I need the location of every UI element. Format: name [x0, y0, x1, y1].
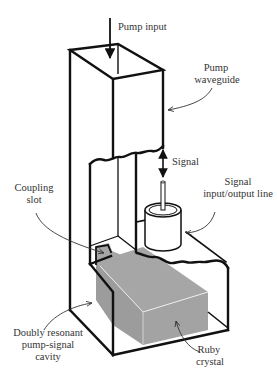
signal-line-cylinder: [145, 181, 181, 251]
label-pump-waveguide-2: waveguide: [194, 74, 240, 85]
leader-pump-waveguide: [168, 88, 212, 110]
maser-cavity-diagram: Pump input Pump waveguide Signal Signal …: [0, 0, 277, 377]
label-signal-line-1: Signal: [225, 176, 252, 187]
label-cavity-1: Doubly resonant: [13, 327, 83, 338]
label-ruby-2: crystal: [196, 356, 224, 367]
label-cavity-3: cavity: [35, 351, 61, 362]
label-pump-input: Pump input: [118, 21, 167, 32]
label-ruby-1: Ruby: [198, 344, 222, 355]
label-coupling-slot-2: slot: [26, 194, 41, 205]
label-coupling-slot-1: Coupling: [14, 182, 54, 193]
label-cavity-2: pump-signal: [22, 339, 75, 350]
leader-signal-line: [186, 212, 215, 233]
label-pump-waveguide-1: Pump: [204, 62, 229, 73]
label-signal-line-2: input/output line: [203, 188, 273, 199]
label-signal: Signal: [172, 156, 199, 167]
